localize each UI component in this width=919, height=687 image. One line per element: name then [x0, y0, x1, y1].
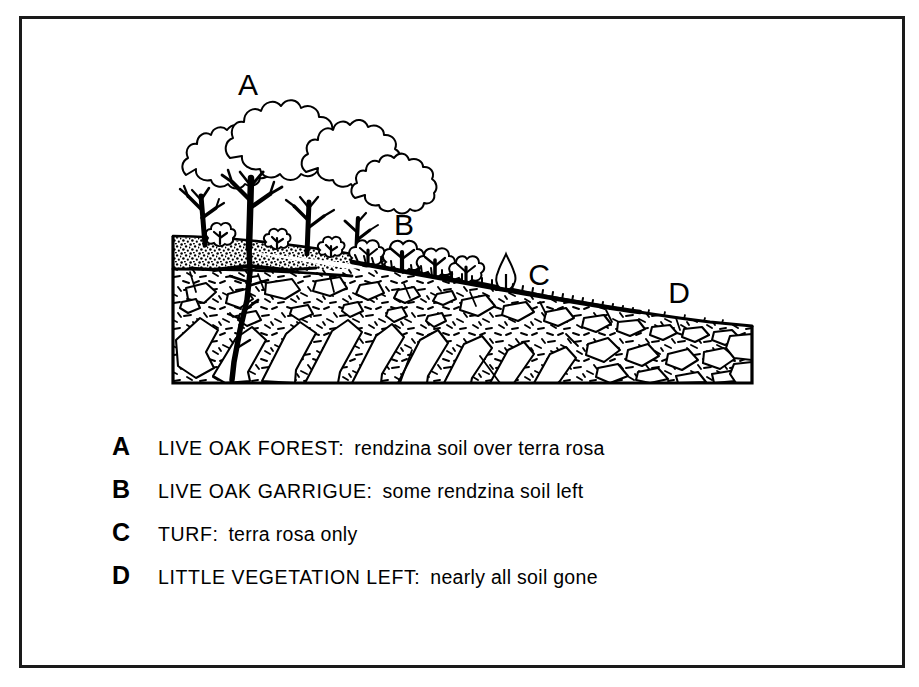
legend-desc-a: rendzina soil over terra rosa	[354, 437, 604, 459]
zone-label-b: B	[394, 208, 414, 241]
legend-entry-d: LITTLE VEGETATION LEFT:nearly all soil g…	[158, 568, 598, 588]
legend-key-c: C	[112, 520, 158, 545]
legend-key-d: D	[112, 563, 158, 588]
figure-root: A B C D A LIVE OAK FOREST:rendzina soil …	[0, 0, 919, 687]
legend-term-c: TURF:	[158, 523, 218, 545]
zone-label-a: A	[238, 68, 258, 101]
zone-label-d: D	[668, 276, 690, 309]
diagram-artwork: A B C D	[173, 68, 752, 383]
legend-entry-c: TURF:terra rosa only	[158, 525, 358, 545]
legend-entry-b: LIVE OAK GARRIGUE:some rendzina soil lef…	[158, 482, 583, 502]
legend-desc-c: terra rosa only	[228, 523, 357, 545]
legend-entry-a: LIVE OAK FOREST:rendzina soil over terra…	[158, 439, 605, 459]
legend-term-a: LIVE OAK FOREST:	[158, 437, 344, 459]
legend-row-a: A LIVE OAK FOREST:rendzina soil over ter…	[112, 434, 812, 477]
legend: A LIVE OAK FOREST:rendzina soil over ter…	[112, 434, 812, 606]
legend-term-d: LITTLE VEGETATION LEFT:	[158, 566, 420, 588]
zone-label-c: C	[528, 258, 550, 291]
legend-desc-d: nearly all soil gone	[430, 566, 598, 588]
legend-row-d: D LITTLE VEGETATION LEFT:nearly all soil…	[112, 563, 812, 606]
legend-desc-b: some rendzina soil left	[383, 480, 584, 502]
legend-row-b: B LIVE OAK GARRIGUE:some rendzina soil l…	[112, 477, 812, 520]
legend-key-a: A	[112, 434, 158, 459]
legend-key-b: B	[112, 477, 158, 502]
legend-term-b: LIVE OAK GARRIGUE:	[158, 480, 373, 502]
legend-row-c: C TURF:terra rosa only	[112, 520, 812, 563]
